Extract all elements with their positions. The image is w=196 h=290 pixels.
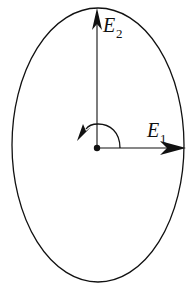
e2-label: E 2 (102, 14, 123, 41)
polarization-diagram: E 2 E 1 (0, 0, 196, 290)
rotation-arrow (77, 124, 120, 148)
e1-label: E 1 (146, 119, 167, 146)
svg-text:E: E (102, 14, 115, 36)
origin-dot (94, 145, 100, 151)
svg-text:2: 2 (116, 26, 123, 41)
svg-text:E: E (146, 119, 159, 141)
e1-axis (97, 141, 186, 155)
e2-axis (92, 8, 102, 148)
svg-text:1: 1 (160, 131, 167, 146)
